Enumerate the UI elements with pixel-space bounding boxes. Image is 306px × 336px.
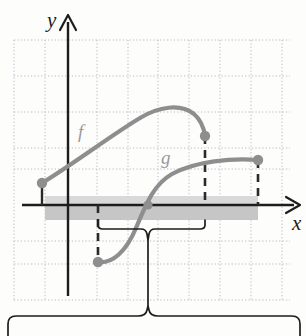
g-right-endpoint <box>253 155 263 165</box>
g-axis-crossing-point <box>143 200 152 209</box>
graph-figure: y x f g <box>0 0 306 336</box>
interval-brace-upper-path <box>98 220 205 240</box>
shaded-interval-band <box>45 196 258 220</box>
interval-brace-lower <box>8 306 300 336</box>
graph-canvas <box>0 0 306 336</box>
dotted-grid <box>14 40 290 300</box>
curve-f-label: f <box>78 122 83 141</box>
interval-brace-upper <box>98 220 205 240</box>
curve-g-label: g <box>161 148 171 167</box>
g-left-endpoint <box>93 257 103 267</box>
interval-brace-lower-path <box>8 306 300 336</box>
f-right-endpoint <box>200 131 210 141</box>
y-axis-label: y <box>47 10 56 31</box>
x-axis-label: x <box>292 213 301 234</box>
f-left-endpoint <box>37 178 47 188</box>
